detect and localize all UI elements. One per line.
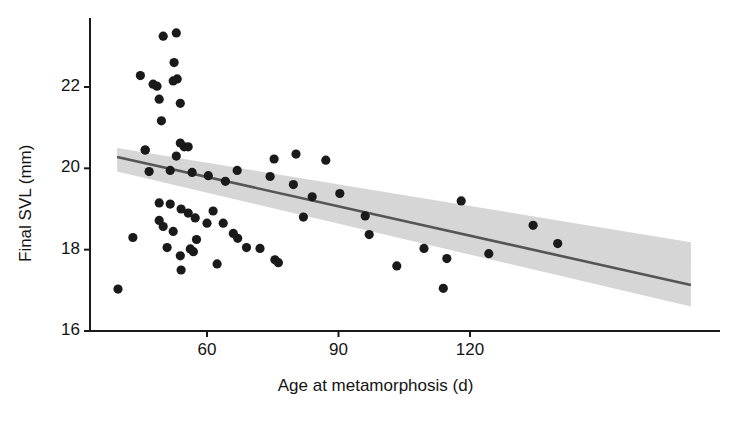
data-point — [209, 206, 218, 215]
data-point — [442, 254, 451, 263]
data-point — [270, 154, 279, 163]
y-tick-label-16: 16 — [56, 320, 80, 340]
data-point — [233, 166, 242, 175]
data-point — [192, 235, 201, 244]
data-point — [213, 259, 222, 268]
data-point — [289, 180, 298, 189]
y-tick-label-22: 22 — [56, 76, 80, 96]
x-tick-label-60: 60 — [187, 340, 227, 360]
data-point — [163, 243, 172, 252]
data-point — [266, 172, 275, 181]
data-point — [159, 222, 168, 231]
data-point — [335, 189, 344, 198]
data-point — [233, 234, 242, 243]
data-point — [274, 258, 283, 267]
data-point — [152, 82, 161, 91]
data-point — [169, 227, 178, 236]
data-point — [219, 219, 228, 228]
y-axis-title: Final SVL (mm) — [16, 145, 36, 262]
data-point — [113, 285, 122, 294]
data-point — [439, 284, 448, 293]
data-point — [173, 74, 182, 83]
data-point — [172, 28, 181, 37]
data-point — [184, 142, 193, 151]
data-point — [529, 221, 538, 230]
data-point — [166, 200, 175, 209]
scatter-plot-figure: 161820226090120 Age at metamorphosis (d)… — [0, 0, 751, 425]
data-point — [155, 95, 164, 104]
data-point — [157, 116, 166, 125]
y-tick-label-20: 20 — [56, 157, 80, 177]
data-point — [308, 192, 317, 201]
data-point — [221, 177, 230, 186]
data-point — [365, 230, 374, 239]
data-point — [457, 196, 466, 205]
confidence-band — [117, 148, 691, 307]
data-point — [176, 251, 185, 260]
data-point — [177, 265, 186, 274]
data-point — [299, 213, 308, 222]
data-point — [392, 261, 401, 270]
data-point — [136, 71, 145, 80]
data-point — [202, 219, 211, 228]
x-tick-label-90: 90 — [319, 340, 359, 360]
data-point — [172, 152, 181, 161]
data-point — [242, 243, 251, 252]
data-point — [170, 58, 179, 67]
data-point — [321, 156, 330, 165]
data-point — [166, 166, 175, 175]
data-point — [291, 150, 300, 159]
data-point — [145, 167, 154, 176]
data-point — [204, 171, 213, 180]
x-axis-title: Age at metamorphosis (d) — [0, 376, 751, 396]
data-point — [141, 145, 150, 154]
data-point — [176, 99, 185, 108]
y-tick-label-18: 18 — [56, 239, 80, 259]
data-point — [159, 32, 168, 41]
data-point — [255, 244, 264, 253]
data-point — [191, 213, 200, 222]
data-point — [189, 247, 198, 256]
data-point — [484, 249, 493, 258]
data-point — [155, 198, 164, 207]
data-point — [188, 168, 197, 177]
data-point — [128, 233, 137, 242]
data-point — [361, 211, 370, 220]
data-point — [553, 239, 562, 248]
plot-canvas — [0, 0, 751, 425]
data-point — [419, 244, 428, 253]
x-tick-label-120: 120 — [450, 340, 490, 360]
